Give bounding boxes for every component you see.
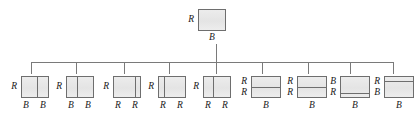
child-left-label: R: [182, 81, 199, 91]
drop-line-5: [216, 62, 217, 74]
root-node-fill: [199, 10, 225, 30]
child-bottom-label: B: [297, 100, 327, 110]
child-node-fill: [385, 77, 413, 97]
vertical-divider: [164, 77, 165, 97]
tree-diagram-figure: R B RBBRBBRRRRRRRRRRRBRRBBRBRBB: [0, 0, 420, 124]
child-bottom-label: R: [128, 100, 142, 110]
child-bottom-label: B: [340, 100, 370, 110]
child-left-label: R: [319, 87, 336, 97]
child-node-box: [203, 76, 231, 98]
horizontal-divider: [385, 81, 413, 82]
child-bottom-label: B: [384, 100, 414, 110]
horizontal-bus-line: [31, 62, 393, 63]
child-node-fill: [204, 77, 230, 97]
child-left-label: R: [230, 76, 247, 86]
root-node-box: [198, 9, 226, 31]
drop-line-1: [31, 62, 32, 74]
child-left-label: R: [230, 87, 247, 97]
child-bottom-label: B: [19, 100, 33, 110]
vertical-divider: [77, 77, 78, 97]
drop-line-6: [262, 62, 263, 74]
child-left-label: B: [319, 76, 336, 86]
child-left-label: R: [137, 81, 154, 91]
child-node-box: [384, 76, 414, 98]
child-bottom-label: R: [173, 100, 187, 110]
child-left-label: R: [276, 76, 293, 86]
child-left-label: R: [276, 87, 293, 97]
child-bottom-label: R: [201, 100, 215, 110]
child-bottom-label: R: [111, 100, 125, 110]
vertical-divider: [135, 77, 136, 97]
child-bottom-label: R: [156, 100, 170, 110]
drop-line-9: [393, 62, 394, 74]
vertical-divider: [37, 77, 38, 97]
child-bottom-label: B: [64, 100, 78, 110]
child-left-label: R: [92, 81, 109, 91]
child-bottom-label: B: [36, 100, 50, 110]
child-node-fill: [67, 77, 93, 97]
drop-line-7: [308, 62, 309, 74]
child-bottom-label: B: [251, 100, 281, 110]
root-left-label: R: [176, 14, 194, 24]
child-bottom-label: R: [218, 100, 232, 110]
child-left-label: R: [45, 81, 62, 91]
vertical-divider: [213, 77, 214, 97]
child-left-label: R: [363, 76, 380, 86]
drop-line-8: [350, 62, 351, 74]
child-left-label: R: [0, 81, 17, 91]
drop-line-3: [124, 62, 125, 74]
drop-line-2: [76, 62, 77, 74]
child-bottom-label: B: [81, 100, 95, 110]
root-bottom-label: B: [198, 32, 226, 42]
root-stem-line: [216, 44, 217, 62]
drop-line-4: [169, 62, 170, 74]
child-left-label: B: [363, 87, 380, 97]
child-node-box: [66, 76, 94, 98]
